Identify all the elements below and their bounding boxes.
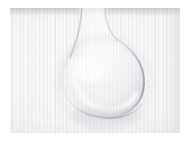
photo-frame bbox=[0, 0, 192, 143]
water-droplet bbox=[10, 8, 180, 133]
paper-margin-right bbox=[180, 0, 192, 143]
photograph-canvas bbox=[10, 8, 180, 133]
paper-margin-left bbox=[0, 0, 10, 143]
droplet-specular-highlight bbox=[75, 58, 105, 82]
paper-margin-top bbox=[0, 0, 192, 8]
paper-margin-bottom bbox=[0, 133, 192, 143]
